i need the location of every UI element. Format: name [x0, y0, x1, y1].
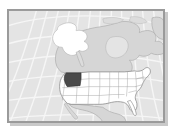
locator-map-figure: North America locator map highlighted-st… [0, 0, 172, 131]
map-frame: North America locator map highlighted-st… [7, 9, 165, 123]
map-canvas[interactable] [8, 10, 164, 122]
highlighted-state[interactable] [64, 73, 81, 87]
